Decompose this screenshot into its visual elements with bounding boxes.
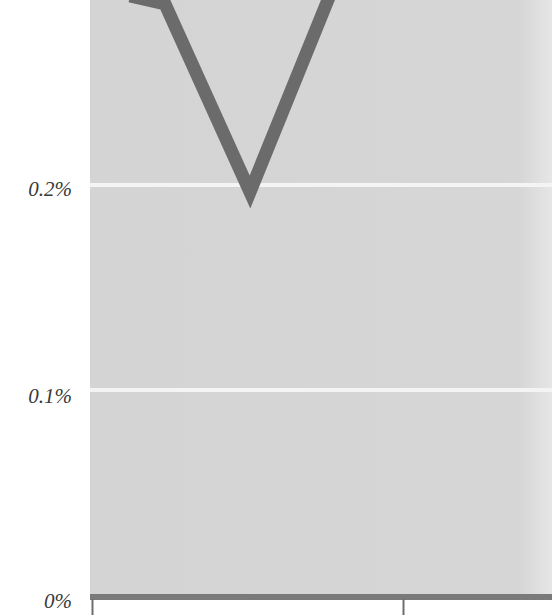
y-tick-label-0: 0% (44, 589, 72, 613)
plot-area (90, 0, 552, 597)
line-chart: 0.2% 0.1% 0% (0, 0, 552, 615)
y-tick-label-0.1: 0.1% (28, 384, 72, 408)
y-tick-label-0.2: 0.2% (28, 177, 72, 201)
